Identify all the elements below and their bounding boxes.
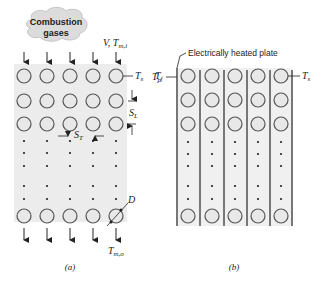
caption-a: (a) [65, 262, 76, 272]
outlet-label: Tm,o [108, 245, 124, 258]
figure-a: Combustion gases V, Tm,i [14, 7, 164, 272]
tube-bank-diagram: Combustion gases V, Tm,i [0, 0, 328, 287]
caption-b: (b) [229, 262, 240, 272]
figure-b: Electrically heated plate Tp [152, 48, 311, 272]
combustion-gases-cloud: Combustion gases [26, 7, 87, 41]
plate-panel [177, 68, 292, 226]
surface-temp-label-b: Ts [302, 70, 311, 83]
inlet-label: V, Tm,i [103, 37, 127, 50]
longitudinal-pitch-label: SL [129, 107, 138, 120]
cloud-label-line2: gases [43, 28, 69, 38]
surface-temp-label-a: Ts [135, 70, 144, 83]
diameter-label: D [127, 194, 136, 205]
outlet-flow-arrows [24, 228, 116, 240]
plate-label: Electrically heated plate [188, 48, 278, 58]
cloud-label-line1: Combustion [30, 17, 83, 27]
inlet-flow-arrows [24, 52, 116, 62]
